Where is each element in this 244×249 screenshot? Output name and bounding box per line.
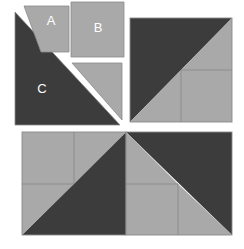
puzzle-figure: A B C (0, 0, 244, 249)
br-light-lower-left-quadrant (126, 184, 178, 235)
assembly-top-right[interactable] (130, 18, 232, 122)
assembly-bottom-right[interactable] (126, 132, 232, 235)
puzzle-canvas: A B C (0, 0, 244, 249)
tr-light-inner-square (181, 70, 232, 122)
piece-b-square[interactable] (71, 2, 124, 57)
assembly-bottom-left[interactable] (22, 132, 126, 235)
bl-light-upper-left-quadrant (22, 132, 74, 184)
